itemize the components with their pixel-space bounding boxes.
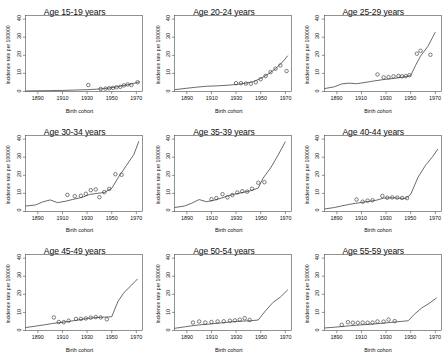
x-tick-label: 1950 bbox=[255, 215, 267, 221]
y-tick-label: 30 bbox=[163, 153, 172, 161]
y-tick-label: 0 bbox=[312, 88, 321, 96]
cohort-incidence-figure: Age 15-19 yearsIncidence rate per 100000… bbox=[0, 0, 448, 359]
x-tick-label: 1890 bbox=[32, 95, 44, 101]
plot-box bbox=[175, 135, 292, 211]
x-tick-label: 1930 bbox=[230, 95, 242, 101]
y-tick-label: 40 bbox=[163, 15, 172, 23]
y-tick-label: 10 bbox=[163, 189, 172, 197]
data-point bbox=[94, 187, 98, 191]
y-tick-label-text: 30 bbox=[164, 151, 170, 160]
x-tick-label: 1890 bbox=[32, 215, 44, 221]
data-point bbox=[386, 318, 390, 322]
chart-panel: Age 30-34 yearsIncidence rate per 100000… bbox=[0, 120, 149, 240]
y-tick-label-text: 20 bbox=[15, 50, 21, 59]
data-point bbox=[395, 195, 399, 199]
y-tick-label-text: 10 bbox=[15, 307, 21, 316]
x-tick-label: 1890 bbox=[181, 215, 193, 221]
y-tick-label-text: 20 bbox=[314, 289, 320, 298]
y-tick-label-text: 10 bbox=[164, 187, 170, 196]
y-tick-label-text: 20 bbox=[15, 289, 21, 298]
data-point bbox=[263, 180, 267, 184]
y-tick-label-text: 20 bbox=[314, 50, 320, 59]
x-tick-label: 1910 bbox=[355, 334, 367, 340]
y-tick-label-text: 0 bbox=[314, 206, 320, 215]
plot-box bbox=[26, 135, 143, 211]
y-tick-label: 20 bbox=[163, 290, 172, 298]
data-point bbox=[249, 82, 253, 86]
data-point bbox=[356, 321, 360, 325]
x-tick-label: 1950 bbox=[106, 334, 118, 340]
y-tick-label-text: 20 bbox=[164, 50, 170, 59]
x-tick-label: 1890 bbox=[181, 95, 193, 101]
data-point bbox=[415, 52, 419, 56]
y-tick-label: 40 bbox=[163, 254, 172, 262]
y-tick-label-text: 10 bbox=[164, 68, 170, 77]
data-point bbox=[84, 192, 88, 196]
fitted-line bbox=[324, 149, 437, 209]
y-tick-label: 30 bbox=[312, 153, 321, 161]
x-tick-label: 1950 bbox=[404, 215, 416, 221]
data-point bbox=[428, 53, 432, 57]
plot-box bbox=[26, 16, 143, 92]
x-tick-label: 1970 bbox=[429, 95, 441, 101]
y-tick-label-text: 0 bbox=[314, 86, 320, 95]
data-point bbox=[192, 321, 196, 325]
y-tick-label-text: 30 bbox=[164, 32, 170, 41]
y-tick-label-text: 40 bbox=[15, 14, 21, 23]
panel-grid: Age 15-19 yearsIncidence rate per 100000… bbox=[0, 0, 448, 359]
y-tick-label-text: 30 bbox=[314, 151, 320, 160]
y-tick-label: 30 bbox=[14, 272, 23, 280]
y-tick-label: 20 bbox=[312, 171, 321, 179]
y-tick-label-text: 0 bbox=[314, 325, 320, 334]
y-tick-label-text: 30 bbox=[15, 271, 21, 280]
y-tick-label-text: 10 bbox=[164, 307, 170, 316]
y-tick-label: 30 bbox=[14, 33, 23, 41]
x-tick-label: 1930 bbox=[230, 334, 242, 340]
y-tick-label: 10 bbox=[312, 189, 321, 197]
data-point bbox=[375, 73, 379, 77]
y-tick-label: 30 bbox=[163, 33, 172, 41]
x-tick-label: 1930 bbox=[380, 215, 392, 221]
x-tick-label: 1950 bbox=[106, 95, 118, 101]
y-tick-label: 30 bbox=[312, 33, 321, 41]
x-tick-label: 1910 bbox=[355, 215, 367, 221]
y-tick-label: 0 bbox=[14, 207, 23, 215]
fitted-line bbox=[324, 32, 435, 88]
x-tick-label: 1930 bbox=[230, 215, 242, 221]
x-tick-label: 1970 bbox=[280, 95, 292, 101]
y-tick-label: 40 bbox=[14, 15, 23, 23]
data-point bbox=[221, 192, 225, 196]
x-tick-label: 1930 bbox=[380, 334, 392, 340]
y-tick-label-text: 30 bbox=[15, 32, 21, 41]
data-point bbox=[210, 320, 214, 324]
data-point bbox=[248, 318, 252, 322]
x-tick-label: 1890 bbox=[181, 334, 193, 340]
data-point bbox=[198, 320, 202, 324]
x-tick-label: 1970 bbox=[429, 215, 441, 221]
data-point bbox=[105, 318, 109, 322]
x-tick-label: 1970 bbox=[280, 215, 292, 221]
y-tick-label-text: 40 bbox=[314, 14, 320, 23]
y-tick-label-text: 30 bbox=[164, 271, 170, 280]
data-point bbox=[254, 81, 258, 85]
fitted-line bbox=[175, 56, 288, 90]
y-tick-label-text: 40 bbox=[15, 133, 21, 142]
y-tick-label: 20 bbox=[163, 51, 172, 59]
x-tick-label: 1950 bbox=[255, 334, 267, 340]
chart-panel: Age 55-59 yearsIncidence rate per 100000… bbox=[299, 239, 448, 359]
y-tick-label: 10 bbox=[312, 69, 321, 77]
y-tick-label-text: 10 bbox=[15, 187, 21, 196]
y-tick-label: 0 bbox=[163, 207, 172, 215]
data-point bbox=[57, 320, 61, 324]
data-point bbox=[365, 321, 369, 325]
chart-panel: Age 35-39 yearsIncidence rate per 100000… bbox=[149, 120, 298, 240]
y-tick-label-text: 10 bbox=[314, 187, 320, 196]
x-tick-label: 1890 bbox=[32, 334, 44, 340]
y-tick-label: 30 bbox=[14, 153, 23, 161]
x-tick-label: 1970 bbox=[130, 95, 142, 101]
y-tick-label: 30 bbox=[163, 272, 172, 280]
y-tick-label-text: 40 bbox=[164, 14, 170, 23]
y-tick-label: 20 bbox=[312, 290, 321, 298]
y-tick-label: 10 bbox=[14, 69, 23, 77]
chart-panel: Age 40-44 yearsIncidence rate per 100000… bbox=[299, 120, 448, 240]
